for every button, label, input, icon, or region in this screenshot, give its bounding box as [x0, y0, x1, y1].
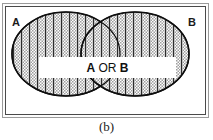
venn-diagram-figure: A B A OR B (b)	[0, 0, 213, 140]
set-b-label: B	[188, 17, 196, 28]
set-a-label: A	[12, 17, 20, 28]
operation-label: A OR B	[86, 62, 128, 74]
operand-a: A	[86, 61, 95, 75]
figure-caption: (b)	[0, 120, 213, 134]
operation-label-band: A OR B	[39, 57, 176, 78]
operator-or: OR	[95, 61, 120, 75]
operand-b: B	[120, 61, 129, 75]
